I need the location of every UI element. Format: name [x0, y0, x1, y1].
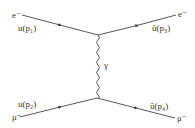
label-e-out: e⁻ [178, 9, 187, 19]
label-e-in: e⁻ [12, 10, 21, 20]
label-ubar-p4: ū(p₄) [150, 101, 168, 111]
photon-propagator [97, 35, 100, 98]
label-u-p1: u(p₁) [18, 23, 36, 33]
label-u-p2: u(p₂) [18, 99, 36, 109]
label-mu-out: μ⁻ [177, 113, 187, 123]
label-ubar-p3: ū(p₃) [152, 23, 170, 33]
label-mu-in: μ⁻ [12, 112, 22, 122]
label-gamma: γ [103, 60, 108, 70]
feynman-diagram: e⁻ u(p₁) e⁻ ū(p₃) γ u(p₂) μ⁻ ū(p₄) μ⁻ [0, 0, 195, 128]
